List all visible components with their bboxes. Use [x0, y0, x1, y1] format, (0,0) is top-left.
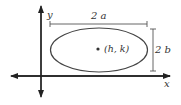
major-axis-dimension — [50, 21, 147, 27]
x-axis-label: x — [164, 78, 170, 89]
minor-axis-label: 2 b — [154, 44, 171, 55]
ellipse-diagram: y x 2 a 2 b (h, k) — [0, 0, 181, 105]
center-point — [96, 47, 99, 50]
y-axis-label: y — [46, 9, 53, 20]
center-label: (h, k) — [104, 43, 130, 54]
major-axis-label: 2 a — [90, 10, 107, 21]
